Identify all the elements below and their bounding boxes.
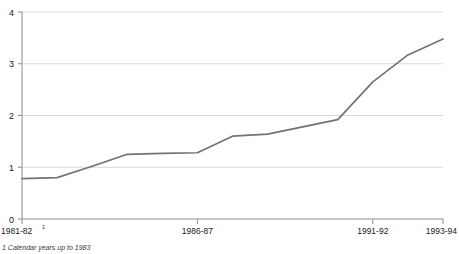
chart-canvas: 4 3 2 1 0 1981-82 1 1986-87 1991-92 1993… <box>0 0 459 254</box>
y-axis-ticks <box>18 12 22 219</box>
y-tick-label-0: 0 <box>9 215 14 225</box>
x-axis-ticks <box>22 219 443 224</box>
y-tick-label-3: 3 <box>9 59 14 69</box>
x-tick-label-1993-94: 1993-94 <box>426 226 457 236</box>
y-axis-tick-labels: 4 3 2 1 0 <box>9 8 14 225</box>
y-tick-label-4: 4 <box>9 8 14 18</box>
x-tick-label-1981-82: 1981-82 <box>1 226 32 236</box>
gridlines <box>22 12 443 167</box>
x-tick-label-1986-87: 1986-87 <box>182 226 213 236</box>
y-tick-label-1: 1 <box>9 163 14 173</box>
x-tick-label-1981-82-superscript: 1 <box>42 224 45 230</box>
footnote: 1 Calendar years up to 1983 <box>2 244 90 252</box>
line-chart: 4 3 2 1 0 1981-82 1 1986-87 1991-92 1993… <box>0 0 459 254</box>
x-tick-label-1991-92: 1991-92 <box>357 226 388 236</box>
data-series-line <box>22 39 443 179</box>
y-tick-label-2: 2 <box>9 111 14 121</box>
x-axis-tick-labels: 1981-82 1 1986-87 1991-92 1993-94 <box>1 224 457 236</box>
